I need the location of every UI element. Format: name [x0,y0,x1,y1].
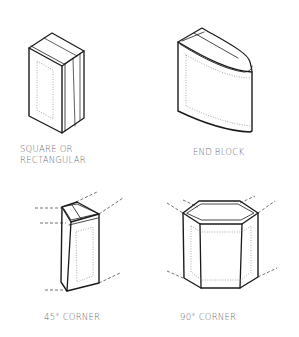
label-line: SQUARE OR [20,144,86,155]
label-line: RECTANGULAR [20,155,86,166]
corner-90-label: 90° CORNER [180,312,236,323]
label-line: END BLOCK [193,147,244,158]
square-block-drawing [29,33,84,133]
label-line: 90° CORNER [180,312,236,323]
square-block-label: SQUARE OR RECTANGULAR [20,144,86,166]
label-line: 45° CORNER [44,312,100,323]
corner-45-label: 45° CORNER [44,312,100,323]
end-block-label: END BLOCK [193,147,244,158]
end-block-drawing [178,28,252,132]
cabinet-types-diagram [0,0,299,337]
corner-90-drawing [167,196,277,288]
corner-45-drawing [35,192,123,291]
